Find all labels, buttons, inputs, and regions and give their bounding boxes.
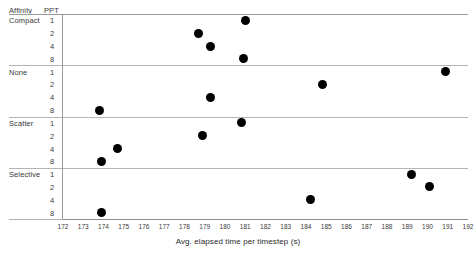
data-point-marker <box>241 16 250 25</box>
ppt-label: 2 <box>47 29 57 38</box>
x-axis-line <box>63 219 468 220</box>
group-label-selective: Selective <box>9 170 40 179</box>
ppt-label: 8 <box>47 55 57 64</box>
ppt-label: 8 <box>47 209 57 218</box>
data-point-marker <box>441 67 450 76</box>
data-point-marker <box>194 29 203 38</box>
data-point-marker <box>239 54 248 63</box>
data-point-marker <box>206 42 215 51</box>
data-point-marker <box>95 106 104 115</box>
data-point-marker <box>407 170 416 179</box>
ppt-label: 8 <box>47 157 57 166</box>
ppt-label: 1 <box>47 68 57 77</box>
ppt-label: 1 <box>47 170 57 179</box>
data-point-marker <box>425 182 434 191</box>
data-point-marker <box>97 208 106 217</box>
plot-area <box>63 14 468 219</box>
data-point-marker <box>206 93 215 102</box>
dot-plot-chart: Affinity PPT Compact1248None1248Scatter1… <box>0 0 476 255</box>
ppt-label: 2 <box>47 132 57 141</box>
group-label-none: None <box>9 68 27 77</box>
data-point-marker <box>113 144 122 153</box>
data-point-marker <box>237 118 246 127</box>
ppt-label: 2 <box>47 80 57 89</box>
ppt-label: 8 <box>47 106 57 115</box>
group-label-scatter: Scatter <box>9 119 33 128</box>
ppt-label: 4 <box>47 196 57 205</box>
x-tick-label: 192 <box>456 223 476 230</box>
ppt-label: 1 <box>47 16 57 25</box>
data-point-marker <box>318 80 327 89</box>
data-point-marker <box>306 195 315 204</box>
data-point-marker <box>97 157 106 166</box>
ppt-label: 4 <box>47 145 57 154</box>
ppt-label: 4 <box>47 42 57 51</box>
ppt-label: 2 <box>47 183 57 192</box>
ppt-label: 1 <box>47 119 57 128</box>
group-label-compact: Compact <box>9 16 40 25</box>
x-axis-title: Avg. elapsed time per timestep (s) <box>0 237 476 246</box>
ppt-label: 4 <box>47 93 57 102</box>
data-point-marker <box>198 131 207 140</box>
